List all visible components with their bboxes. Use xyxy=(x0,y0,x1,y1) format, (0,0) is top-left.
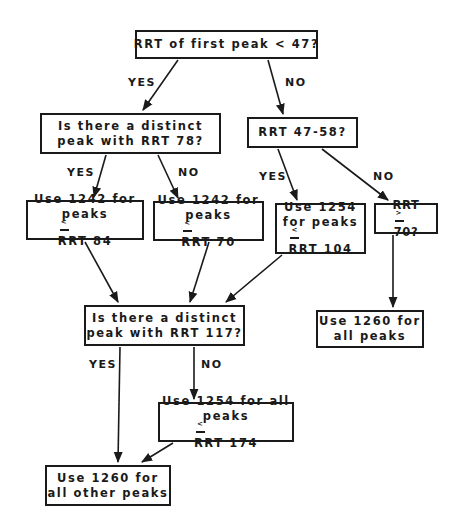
edge-first-no xyxy=(268,60,283,114)
node-peak78-question: Is there a distinct peak with RRT 78? xyxy=(40,113,221,154)
edge-label-first-no: NO xyxy=(285,76,307,89)
node-text-line-2: all other peaks xyxy=(48,486,169,501)
text-fragment: peaks xyxy=(203,409,249,423)
node-text-line-1: Use 1254 for all xyxy=(162,394,290,409)
node-text-line-2: all peaks xyxy=(334,329,406,344)
symbol-glyph: > xyxy=(396,210,402,217)
edge-1254-104-to-p117 xyxy=(226,255,282,302)
edge-label-first-yes: YES xyxy=(128,76,156,89)
text-fragment: 70? xyxy=(394,225,418,239)
edge-label-p117-no: NO xyxy=(201,358,223,371)
node-text: RRT 47-58? xyxy=(258,125,347,140)
node-text: RRT>70? xyxy=(393,198,420,240)
node-text-line-2: peaks<RRT 174 xyxy=(194,409,258,451)
node-text-line-1: Is there a distinct xyxy=(58,119,203,134)
symbol-glyph: < xyxy=(197,421,204,428)
symbol-glyph: < xyxy=(184,220,191,227)
text-fragment: RRT 84 xyxy=(58,234,113,248)
edge-1242-84-to-p117 xyxy=(85,242,118,302)
symbol-glyph: < xyxy=(61,219,68,226)
less-equal-symbol: < xyxy=(183,223,192,235)
node-text-line-1: Use 1242 for xyxy=(158,193,260,208)
edge-1242-70-to-p117 xyxy=(190,242,209,302)
edge-label-p117-yes: YES xyxy=(89,358,117,371)
node-text-line-1: Use 1242 for xyxy=(34,192,136,207)
edge-label-r4758-yes: YES xyxy=(259,170,287,183)
text-fragment: RRT 174 xyxy=(194,436,258,450)
node-use-1260-other: Use 1260 for all other peaks xyxy=(45,465,171,506)
text-fragment: RRT 104 xyxy=(288,242,352,256)
node-first-peak-question: RRT of first peak < 47? xyxy=(135,30,318,59)
node-use-1242-rrt84: Use 1242 for peaks<RRT 84 xyxy=(26,200,144,240)
less-equal-symbol: < xyxy=(60,222,69,234)
node-text-line-2: peak with RRT 117? xyxy=(86,326,242,341)
node-use-1254-rrt104: Use 1254 for peaks <RRT 104 xyxy=(275,203,366,254)
text-fragment: peaks xyxy=(185,208,231,222)
greater-equal-symbol: > xyxy=(395,213,404,225)
node-text-line-2: peaks<RRT 70 xyxy=(181,208,236,250)
edge-label-p78-no: NO xyxy=(178,166,200,179)
node-rrt-47-58-question: RRT 47-58? xyxy=(247,117,358,148)
node-use-1242-rrt70: Use 1242 for peaks<RRT 70 xyxy=(153,201,264,241)
node-text-line-1: Use 1260 for xyxy=(319,314,421,329)
edge-label-p78-yes: YES xyxy=(67,166,95,179)
text-fragment: peaks xyxy=(62,207,108,221)
edge-p117-yes xyxy=(118,347,120,462)
less-equal-symbol: < xyxy=(196,424,205,436)
edge-label-r4758-no: NO xyxy=(373,170,395,183)
node-rrt-ge-70-question: RRT>70? xyxy=(374,203,438,234)
node-text-line-1: Use 1260 for xyxy=(57,471,159,486)
text-fragment: RRT 70 xyxy=(181,235,236,249)
node-use-1254-rrt174: Use 1254 for all peaks<RRT 174 xyxy=(158,402,294,442)
node-text-line-2: peaks<RRT 84 xyxy=(58,207,113,249)
node-peak117-question: Is there a distinct peak with RRT 117? xyxy=(84,305,245,346)
node-text-line-1: Use 1254 xyxy=(284,200,357,215)
node-text-line-3: <RRT 104 xyxy=(288,230,352,257)
node-text-line-1: Is there a distinct xyxy=(92,311,237,326)
node-text-line-2: peak with RRT 78? xyxy=(57,134,204,149)
less-equal-symbol: < xyxy=(290,230,299,242)
node-use-1260-all: Use 1260 for all peaks xyxy=(316,310,424,348)
edge-1254-174-to-1260-other xyxy=(142,443,173,462)
node-text: RRT of first peak < 47? xyxy=(134,37,319,52)
symbol-glyph: < xyxy=(291,227,298,234)
